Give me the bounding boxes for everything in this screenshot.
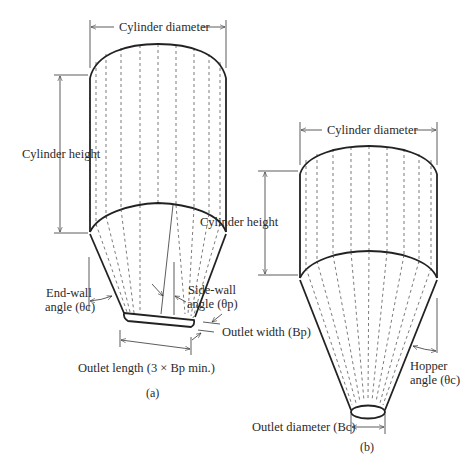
cylinder-a-top-arc — [90, 44, 226, 78]
label-a-cylinder-diameter: Cylinder diameter — [119, 20, 210, 34]
outlet-circle-b — [351, 406, 385, 419]
silo-hopper-diagram: Cylinder diameter Cylinder height End-wa… — [0, 0, 467, 471]
label-b-panel: (b) — [360, 440, 374, 454]
label-a-outlet-length: Outlet length (3 × Bp min.) — [78, 361, 215, 375]
label-b-hopper-2: angle (θc) — [410, 373, 460, 387]
label-b-hopper-1: Hopper — [410, 359, 448, 373]
label-a-cylinder-height: Cylinder height — [22, 147, 101, 161]
outlet-slot-a — [124, 313, 194, 327]
hopper-a-left-wall — [90, 234, 124, 313]
cylinder-b-top-arc — [300, 146, 437, 174]
label-b-cylinder-diameter: Cylinder diameter — [327, 123, 418, 137]
label-a-panel: (a) — [146, 386, 159, 400]
label-a-side-wall-1: Side-wall — [188, 283, 236, 297]
label-b-cylinder-height: Cylinder height — [200, 215, 279, 229]
label-a-side-wall-2: angle (θp) — [187, 297, 238, 311]
label-b-outlet-diameter: Outlet diameter (Bc) — [252, 420, 355, 434]
label-a-end-wall-2: angle (θc) — [45, 300, 95, 314]
label-a-end-wall-1: End-wall — [46, 286, 92, 300]
cylinder-a-dashed-lines — [96, 44, 220, 226]
figure-b-conical-hopper — [258, 122, 437, 434]
hopper-b-left-wall — [300, 280, 351, 410]
label-a-outlet-width: Outlet width (Bp) — [222, 325, 311, 339]
hopper-b-right-wall — [385, 280, 437, 410]
